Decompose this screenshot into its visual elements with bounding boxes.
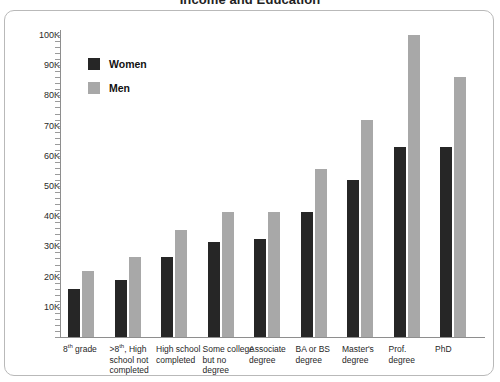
bar-women: [254, 239, 266, 337]
y-axis-tick-label: 50K: [8, 181, 60, 191]
y-axis-minor-tick: [55, 114, 60, 115]
y-axis-minor-tick: [55, 89, 60, 90]
x-axis-category-label: BA or BS degree: [296, 344, 344, 365]
y-axis-minor-tick: [55, 265, 60, 266]
y-axis-minor-tick: [55, 71, 60, 72]
bar-men: [361, 120, 373, 337]
bar-women: [347, 180, 359, 337]
y-axis-minor-tick: [55, 204, 60, 205]
y-axis-minor-tick: [55, 41, 60, 42]
bar-men: [175, 230, 187, 337]
y-axis-minor-tick: [55, 283, 60, 284]
y-axis-tick-label: 30K: [8, 241, 60, 251]
bar-women: [68, 289, 80, 337]
bar-men: [82, 271, 94, 337]
chart-legend: WomenMen: [88, 55, 147, 103]
bar-women: [161, 257, 173, 337]
x-axis-category-label: Prof. degree: [389, 344, 433, 365]
y-axis-minor-tick: [55, 295, 60, 296]
y-axis-minor-tick: [55, 156, 60, 157]
y-axis-minor-tick: [55, 138, 60, 139]
y-axis-minor-tick: [55, 240, 60, 241]
bar-women: [301, 212, 313, 337]
x-axis-line: [60, 337, 485, 338]
x-axis-category-label: Some college but no degree: [203, 344, 255, 376]
bar-chart-plot-area: 100K90K80K70K60K50K40K30K20K10K 8th grad…: [0, 0, 500, 382]
y-axis-minor-tick: [55, 120, 60, 121]
y-axis-minor-tick: [55, 222, 60, 223]
bar-men: [222, 212, 234, 337]
x-axis-category-label: Master's degree: [342, 344, 390, 365]
y-axis-minor-tick: [55, 107, 60, 108]
y-axis-minor-tick: [55, 144, 60, 145]
bar-women: [440, 147, 452, 337]
y-axis-minor-tick: [55, 246, 60, 247]
legend-label: Men: [109, 82, 130, 94]
y-axis-minor-tick: [55, 325, 60, 326]
chart-title: Income and Education: [0, 0, 500, 7]
y-axis-minor-tick: [55, 258, 60, 259]
y-axis-minor-tick: [55, 319, 60, 320]
y-axis-minor-tick: [55, 313, 60, 314]
y-axis-minor-tick: [55, 95, 60, 96]
y-axis-minor-tick: [55, 180, 60, 181]
y-axis-minor-tick: [55, 59, 60, 60]
y-axis-minor-tick: [55, 192, 60, 193]
y-axis-minor-tick: [55, 126, 60, 127]
bar-men: [129, 257, 141, 337]
y-axis-minor-tick: [55, 289, 60, 290]
bar-men: [408, 35, 420, 337]
y-axis-minor-tick: [55, 53, 60, 54]
bar-men: [315, 169, 327, 337]
y-axis-minor-tick: [55, 83, 60, 84]
y-axis-minor-tick: [55, 277, 60, 278]
y-axis-minor-tick: [55, 186, 60, 187]
y-axis-minor-tick: [55, 252, 60, 253]
y-axis-minor-tick: [55, 307, 60, 308]
bar-women: [394, 147, 406, 337]
x-axis-category-label: PhD: [435, 344, 475, 355]
y-axis-minor-tick: [55, 47, 60, 48]
y-axis-minor-tick: [55, 228, 60, 229]
y-axis-minor-tick: [55, 77, 60, 78]
x-axis-category-label: Associate degree: [249, 344, 297, 365]
legend-swatch-icon: [88, 82, 100, 94]
y-axis-minor-tick: [55, 162, 60, 163]
legend-swatch-icon: [88, 58, 100, 70]
y-axis-tick-label: 20K: [8, 272, 60, 282]
y-axis-minor-tick: [55, 271, 60, 272]
y-axis-tick-label: 60K: [8, 151, 60, 161]
y-axis-minor-tick: [55, 132, 60, 133]
y-axis-tick-label: 80K: [8, 90, 60, 100]
y-axis-minor-tick: [55, 65, 60, 66]
y-axis-line: [60, 30, 61, 338]
legend-label: Women: [109, 58, 147, 70]
y-axis-minor-tick: [55, 337, 60, 338]
y-axis-minor-tick: [55, 234, 60, 235]
y-axis-tick-label: 90K: [8, 60, 60, 70]
y-axis-minor-tick: [55, 216, 60, 217]
y-axis-minor-tick: [55, 168, 60, 169]
legend-item: Men: [88, 79, 147, 97]
bar-men: [268, 212, 280, 337]
y-axis-minor-tick: [55, 331, 60, 332]
y-axis-tick-label: 70K: [8, 121, 60, 131]
y-axis-minor-tick: [55, 150, 60, 151]
y-axis-minor-tick: [55, 210, 60, 211]
x-axis-category-label: >8th, High school not completed: [110, 344, 160, 376]
bar-men: [454, 77, 466, 337]
y-axis-tick-label: 40K: [8, 211, 60, 221]
legend-item: Women: [88, 55, 147, 73]
y-axis-minor-tick: [55, 174, 60, 175]
bar-women: [208, 242, 220, 337]
y-axis-minor-tick: [55, 35, 60, 36]
y-axis-minor-tick: [55, 301, 60, 302]
y-axis-minor-tick: [55, 101, 60, 102]
bar-women: [115, 280, 127, 337]
y-axis-tick-label: 100K: [8, 30, 60, 40]
x-axis-category-label: High school completed: [156, 344, 208, 365]
y-axis-minor-tick: [55, 198, 60, 199]
y-axis-tick-label: 10K: [8, 302, 60, 312]
